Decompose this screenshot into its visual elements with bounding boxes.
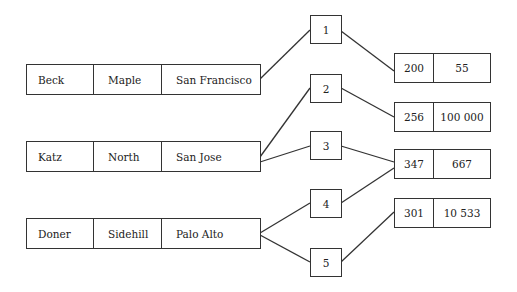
value-amount: 10 533 (433, 199, 490, 227)
link-katz-to-2 (260, 88, 310, 157)
pointer-5: 5 (310, 248, 342, 277)
pointer-3: 3 (310, 131, 342, 160)
record-name: Doner (27, 219, 93, 248)
value-amount: 100 000 (433, 103, 490, 131)
value-key: 200 (395, 54, 433, 82)
link-doner-to-5 (260, 235, 310, 262)
pointer-4: 4 (310, 189, 342, 218)
link-1-to-200 (341, 31, 394, 71)
record-city: Palo Alto (161, 219, 260, 248)
value-amount: 667 (433, 150, 490, 178)
link-3-to-347 (341, 146, 394, 162)
record-city: San Jose (161, 142, 260, 171)
value-key: 256 (395, 103, 433, 131)
pointer-2: 2 (310, 74, 342, 103)
link-katz-to-3 (260, 146, 310, 162)
record-doner: Doner Sidehill Palo Alto (26, 218, 261, 249)
link-doner-to-4 (260, 203, 310, 233)
value-key: 301 (395, 199, 433, 227)
link-4-to-347 (341, 168, 394, 203)
record-street: North (93, 142, 161, 171)
value-256: 256 100 000 (394, 102, 491, 132)
pointer-1: 1 (310, 15, 342, 44)
record-beck: Beck Maple San Francisco (26, 64, 261, 95)
value-347: 347 667 (394, 149, 491, 179)
record-name: Beck (27, 65, 93, 94)
record-street: Sidehill (93, 219, 161, 248)
link-5-to-301 (341, 212, 394, 262)
record-name: Katz (27, 142, 93, 171)
value-200: 200 55 (394, 53, 491, 83)
link-beck-to-1 (260, 30, 310, 79)
value-301: 301 10 533 (394, 198, 491, 228)
value-key: 347 (395, 150, 433, 178)
record-katz: Katz North San Jose (26, 141, 261, 172)
record-street: Maple (93, 65, 161, 94)
value-amount: 55 (433, 54, 490, 82)
record-city: San Francisco (161, 65, 260, 94)
link-2-to-256 (341, 88, 394, 117)
